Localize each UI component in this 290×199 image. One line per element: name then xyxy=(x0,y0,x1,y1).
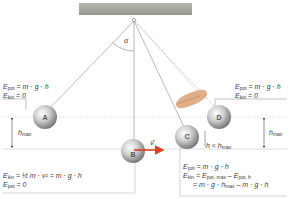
annotation-B: Ekin = ½ m · v² = m · g · h Epot = 0 xyxy=(3,172,82,190)
hmax-right-label: hmax xyxy=(269,129,282,138)
ball-C-label: C xyxy=(182,133,192,140)
annotation-D-line2: Ekin = 0 xyxy=(235,92,281,101)
hmax-left-sub: max xyxy=(22,131,31,137)
annotation-C-line2: Ekin = Epot, max – Epot, h xyxy=(183,172,268,181)
h-less-sub: max xyxy=(222,144,231,150)
annotation-C-line1: Epot = m · g · h xyxy=(183,163,268,172)
pendulum-diagram: α A B C D v⃗ hmax hmax h < hmax Epot = m… xyxy=(0,0,290,199)
ball-B-label: B xyxy=(128,151,138,158)
h-less-label: h < hmax xyxy=(206,142,231,151)
annotation-A: Epot = m · g · h Ekin = 0 xyxy=(3,83,49,101)
annotation-B-line1: Ekin = ½ m · v² = m · g · h xyxy=(3,172,82,181)
annotation-C: Epot = m · g · h Ekin = Epot, max – Epot… xyxy=(183,163,268,190)
annotation-A-line1: Epot = m · g · h xyxy=(3,83,49,92)
hmax-left-label: hmax xyxy=(18,129,31,138)
velocity-label: v⃗ xyxy=(150,139,154,147)
annotation-D: Epot = m · g · h Ekin = 0 xyxy=(235,83,281,101)
ball-A-label: A xyxy=(40,114,50,121)
h-less-text: h < h xyxy=(206,142,222,149)
annotation-A-line2: Ekin = 0 xyxy=(3,92,49,101)
hmax-right-sub: max xyxy=(273,131,282,137)
ball-D-label: D xyxy=(214,114,224,121)
string-A xyxy=(48,21,134,110)
string-C xyxy=(134,21,184,127)
string-D-dotted-2 xyxy=(136,21,200,95)
angle-alpha: α xyxy=(124,36,129,45)
annotation-D-line1: Epot = m · g · h xyxy=(235,83,281,92)
annotation-C-line3: = m · g · hmax – m · g · h xyxy=(183,181,268,190)
annotation-B-line2: Epot = 0 xyxy=(3,181,82,190)
ceiling-bar xyxy=(79,3,192,15)
